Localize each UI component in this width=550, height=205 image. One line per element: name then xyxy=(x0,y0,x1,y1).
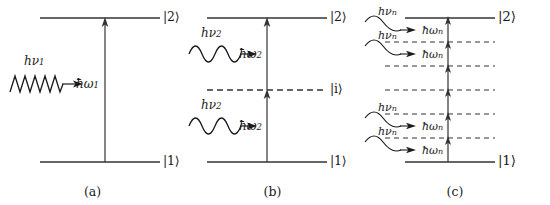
photon-energy-label-2: hνn xyxy=(378,30,397,41)
transition-energy-label-5: ħωn xyxy=(422,49,443,60)
transition-energy-label-upper: ħω2 xyxy=(239,48,262,60)
panel-a-graphics xyxy=(0,0,185,205)
ket-label-ground: |1⟩ xyxy=(498,154,516,168)
panel-caption-c: (c) xyxy=(360,184,550,199)
photon-energy-label-upper: hν2 xyxy=(201,27,221,39)
transition-energy-label-2: ħωn xyxy=(422,121,443,132)
ket-label-excited: |2⟩ xyxy=(163,11,179,24)
photon-energy-label-4: hνn xyxy=(378,126,397,137)
panel-b-two-photon: |2⟩ |i⟩ |1⟩ hν2 hν2 ħω2 ħω2 (b) xyxy=(185,0,360,205)
ket-label-excited: |2⟩ xyxy=(330,11,346,24)
photon-energy-label-3: hνn xyxy=(378,102,397,113)
transition-energy-label-1: ħωn xyxy=(422,145,443,156)
panel-caption-a: (a) xyxy=(0,184,185,199)
photon-wave-icon xyxy=(10,76,63,92)
transition-energy-label-6: ħωn xyxy=(422,25,443,36)
panel-caption-b: (b) xyxy=(185,184,360,199)
transition-energy-label: ħω1 xyxy=(76,78,99,90)
ket-label-intermediate: |i⟩ xyxy=(330,83,343,96)
photon-wave-icon-lower xyxy=(189,118,241,134)
photon-energy-label-lower: hν2 xyxy=(201,99,221,111)
photon-energy-label: hν1 xyxy=(24,55,44,67)
ket-label-excited: |2⟩ xyxy=(498,10,516,24)
panel-a-single-photon: |2⟩ |1⟩ hν1 ħω1 (a) xyxy=(0,0,185,205)
photon-wave-icon-upper xyxy=(189,46,241,62)
photon-energy-label-1: hνn xyxy=(378,6,397,17)
ket-label-ground: |1⟩ xyxy=(163,155,179,168)
energy-level-diagram-figure: |2⟩ |1⟩ hν1 ħω1 (a) xyxy=(0,0,550,205)
ket-label-ground: |1⟩ xyxy=(330,155,346,168)
panel-c-n-photon: |2⟩ |1⟩ hνn hνn hνn hνn ħωn ħωn ħωn ħωn xyxy=(360,0,550,205)
transition-energy-label-lower: ħω2 xyxy=(239,120,262,132)
